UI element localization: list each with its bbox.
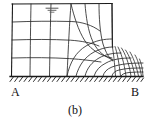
top-surface-line (12, 4, 112, 5)
corner-label-a: A (11, 86, 20, 98)
water-table-icon (46, 8, 58, 12)
coarse-vline-1 (30, 4, 31, 76)
coarse-vline-2 (50, 4, 52, 76)
fine-rib-3 (118, 47, 126, 76)
coarse-mesh-group (12, 4, 101, 76)
corner-label-b: B (131, 86, 139, 98)
arc-line-7 (121, 72, 143, 76)
figure-caption: (b) (0, 104, 150, 116)
fine-rib-4 (122, 48, 132, 76)
base-hatching (10, 77, 144, 82)
fine-rib-1 (112, 47, 115, 76)
graded-arc-lines (67, 39, 143, 76)
coarse-hline-3 (12, 58, 101, 62)
figure-container: A B (b) (0, 0, 150, 122)
graded-radial-lines (71, 4, 113, 62)
coarse-hline-1 (12, 21, 100, 31)
fine-mesh-ribs (112, 47, 143, 77)
radial-line-1 (71, 4, 112, 58)
arc-line-1 (67, 39, 112, 76)
base-support (10, 77, 144, 82)
